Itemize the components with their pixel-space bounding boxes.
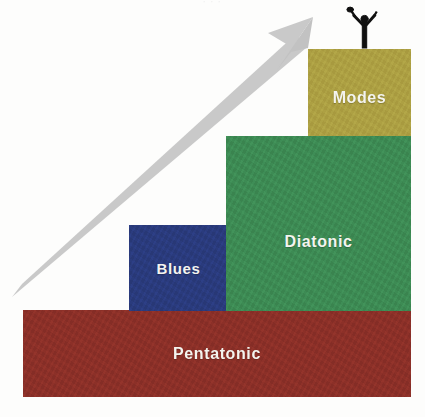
block-blues[interactable]: Blues	[129, 225, 228, 311]
diagram-canvas: · · · Pentatonic Blues Diatonic Modes	[0, 0, 425, 417]
block-pentatonic[interactable]: Pentatonic	[23, 310, 411, 397]
block-diatonic-label: Diatonic	[285, 233, 353, 251]
block-blues-label: Blues	[157, 260, 201, 277]
block-modes-label: Modes	[333, 89, 387, 107]
celebrating-stick-figure-icon	[344, 6, 384, 52]
block-pentatonic-label: Pentatonic	[173, 345, 261, 363]
block-diatonic[interactable]: Diatonic	[226, 136, 411, 311]
block-modes[interactable]: Modes	[308, 49, 411, 136]
